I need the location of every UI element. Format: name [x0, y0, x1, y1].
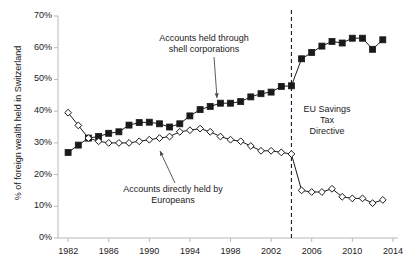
x-axis-tick-label: 2010	[330, 247, 374, 256]
y-axis-tick-label: 30%	[14, 138, 52, 147]
x-axis-tick-label: 1998	[209, 247, 253, 256]
y-axis-tick-label: 50%	[14, 74, 52, 83]
x-axis-tick-label: 1990	[127, 247, 171, 256]
y-axis-tick-label: 20%	[14, 170, 52, 179]
y-axis-tick-label: 70%	[14, 11, 52, 20]
chart-container: % of foreign wealth held in Switzerland …	[0, 0, 409, 270]
y-axis-tick-label: 0%	[14, 233, 52, 242]
annotation-direct-accounts: Accounts directly held by Europeans	[112, 184, 234, 206]
x-axis-tick-label: 2014	[371, 247, 409, 256]
x-axis-tick-label: 2002	[249, 247, 293, 256]
y-axis-tick-label: 40%	[14, 106, 52, 115]
y-axis-tick-label: 60%	[14, 43, 52, 52]
annotation-shell-corporations: Accounts held through shell corporations	[148, 33, 260, 55]
y-axis-title: % of foreign wealth held in Switzerland	[13, 33, 23, 213]
x-axis-tick-label: 1982	[46, 247, 90, 256]
annotation-eu-savings-tax-directive: EU Savings Tax Directive	[289, 104, 365, 137]
x-axis-tick-label: 1986	[87, 247, 131, 256]
y-axis-tick-label: 10%	[14, 201, 52, 210]
x-axis-tick-label: 1994	[168, 247, 212, 256]
x-axis-tick-label: 2006	[290, 247, 334, 256]
